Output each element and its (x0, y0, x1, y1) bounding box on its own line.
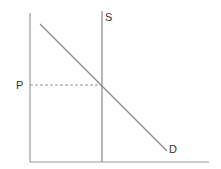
demand-label: D (169, 143, 177, 155)
demand-curve (40, 24, 167, 151)
price-label: P (16, 79, 23, 91)
supply-demand-diagram: S D P (0, 0, 221, 169)
diagram-canvas: S D P (0, 0, 221, 169)
supply-label: S (105, 11, 112, 23)
